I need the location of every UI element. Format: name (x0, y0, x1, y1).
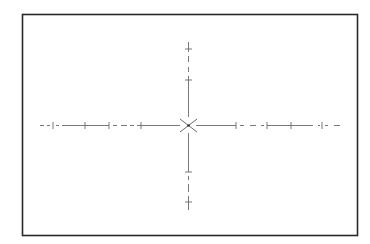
center-x-mark (180, 119, 197, 132)
reticle-diagram (0, 0, 370, 244)
